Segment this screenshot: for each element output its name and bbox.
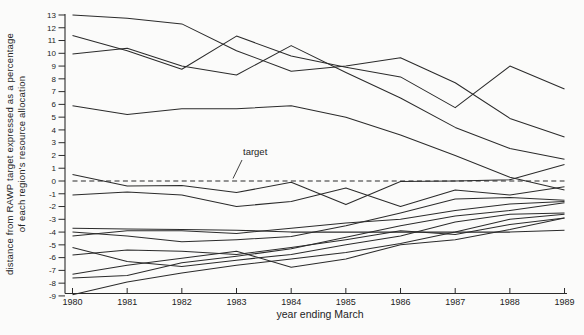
y-tick-label: -1 [49,190,57,199]
y-tick-label: 8 [52,75,57,84]
x-tick-label: 1981 [117,297,137,307]
y-tick-label: -4 [49,228,57,237]
y-tick-label: 6 [52,100,57,109]
y-tick-label: -3 [49,215,57,224]
y-axis-label: distance from RAWP target expressed as a… [4,4,30,304]
region-line-6 [73,187,565,207]
y-tick-label: -7 [49,266,57,275]
y-tick-label: -5 [49,241,57,250]
x-tick-label: 1986 [391,297,411,307]
y-axis-label-line2: of each region's resource allocation [16,4,28,304]
x-tick-label: 1989 [555,297,575,307]
region-line-3 [73,46,565,160]
x-tick-label: 1982 [172,297,192,307]
y-axis-label-line1: distance from RAWP target expressed as a… [4,4,16,304]
target-annotation-leader [233,160,242,179]
y-tick-label: 1 [52,164,57,173]
y-tick-label: -9 [49,292,57,301]
region-line-10 [73,213,565,267]
y-tick-label: 0 [52,177,57,186]
rawp-distance-chart: 131211109876543210-1-2-3-4-5-6-7-8-91980… [0,0,584,335]
region-line-12 [73,218,565,274]
y-tick-label: 5 [52,113,57,122]
y-tick-label: -2 [49,202,57,211]
y-tick-label: -6 [49,253,57,262]
x-tick-label: 1984 [281,297,301,307]
region-line-14 [73,214,565,295]
y-tick-label: 11 [48,36,57,45]
x-tick-label: 1980 [62,297,82,307]
y-tick-label: 9 [52,62,57,71]
x-tick-label: 1987 [445,297,465,307]
region-line-8 [73,198,565,242]
y-tick-label: 4 [52,126,57,135]
y-tick-label: 7 [52,87,57,96]
region-line-13 [73,203,565,278]
x-tick-label: 1983 [226,297,246,307]
y-tick-label: -8 [49,279,57,288]
y-tick-label: 12 [47,24,56,33]
plot-area: 131211109876543210-1-2-3-4-5-6-7-8-91980… [0,0,584,335]
y-tick-label: 3 [52,138,57,147]
region-line-1 [73,15,565,137]
target-annotation-label: target [243,146,267,157]
y-tick-label: 13 [47,11,56,20]
x-tick-label: 1985 [336,297,356,307]
x-axis-label: year ending March [180,308,460,320]
x-tick-label: 1988 [500,297,520,307]
y-tick-label: 10 [47,49,56,58]
y-tick-label: 2 [52,151,57,160]
region-line-2 [73,35,565,107]
region-line-4 [73,106,565,190]
